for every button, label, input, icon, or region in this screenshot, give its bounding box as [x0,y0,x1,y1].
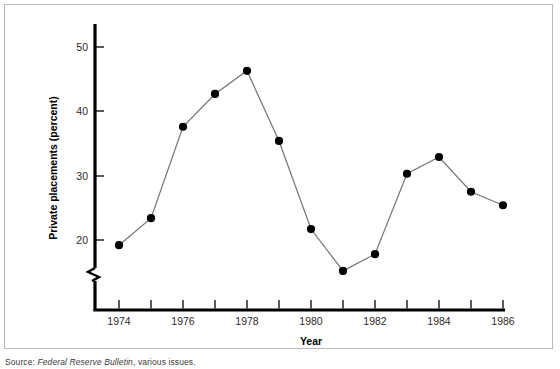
data-point-1985 [467,188,475,196]
x-tick-label-1980: 1980 [299,315,323,327]
data-point-1977 [211,90,219,98]
data-point-1979 [275,137,283,145]
y-tick-label-50: 50 [76,41,88,53]
data-point-1980 [307,225,315,233]
y-axis-title: Private placements (percent) [47,96,59,240]
source-suffix: , various issues. [133,357,196,367]
x-tick-label-1982: 1982 [363,315,387,327]
y-tick-label-40: 40 [76,105,88,117]
line-chart: 50 40 30 20 Private placements (percent)… [0,0,560,369]
data-point-1986 [499,201,507,209]
data-series-markers [115,67,507,275]
source-note: Source: Federal Reserve Bulletin, variou… [5,357,196,367]
x-axis-title: Year [300,335,322,347]
data-point-1984 [435,153,443,161]
y-tick-marks [96,47,104,240]
x-tick-labels: 1974 1976 1978 1980 1982 1984 1986 [107,315,515,327]
x-tick-label-1986: 1986 [491,315,515,327]
data-point-1976 [179,123,187,131]
y-tick-labels: 50 40 30 20 [76,41,88,246]
data-point-1983 [403,170,411,178]
source-prefix: Source: [5,357,35,367]
y-tick-label-20: 20 [76,234,88,246]
source-publication: Federal Reserve Bulletin [37,357,132,367]
x-tick-label-1984: 1984 [427,315,451,327]
figure-container: 50 40 30 20 Private placements (percent)… [0,0,560,369]
x-tick-label-1974: 1974 [107,315,131,327]
data-point-1981 [339,267,347,275]
data-point-1975 [147,214,155,222]
x-tick-label-1976: 1976 [171,315,195,327]
x-tick-label-1978: 1978 [235,315,259,327]
y-axis-break-icon [88,268,99,281]
data-series-line [119,71,503,271]
x-tick-marks [119,300,503,309]
y-tick-label-30: 30 [76,170,88,182]
data-point-1974 [115,241,123,249]
data-point-1982 [371,250,379,258]
axes-group [88,24,505,311]
data-point-1978 [243,67,251,75]
